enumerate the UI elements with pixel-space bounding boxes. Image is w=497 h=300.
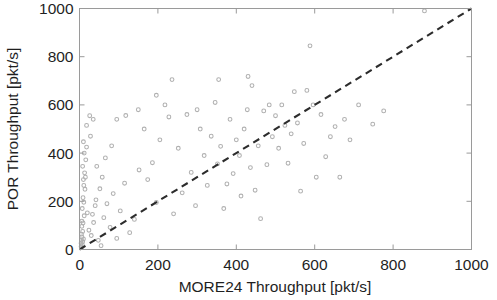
y-tick-label: 0	[65, 241, 74, 258]
x-tick-label: 800	[380, 256, 406, 273]
x-tick-label: 1000	[454, 256, 489, 273]
x-tick-label: 200	[145, 256, 171, 273]
y-tick-label: 200	[48, 193, 74, 210]
plot-svg: 02004006008001000 02004006008001000 MORE…	[0, 0, 497, 300]
x-tick-label: 600	[302, 256, 328, 273]
y-tick-label: 400	[48, 145, 74, 162]
y-tick-label: 1000	[39, 0, 74, 17]
scatter-plot-figure: 02004006008001000 02004006008001000 MORE…	[0, 0, 497, 300]
x-tick-label: 0	[76, 256, 85, 273]
x-tick-label: 400	[223, 256, 249, 273]
y-tick-label: 800	[48, 48, 74, 65]
x-axis-label: MORE24 Throughput [pkt/s]	[179, 278, 372, 295]
y-axis-label: POR Throughput [pkt/s]	[4, 48, 21, 211]
y-tick-label: 600	[48, 96, 74, 113]
